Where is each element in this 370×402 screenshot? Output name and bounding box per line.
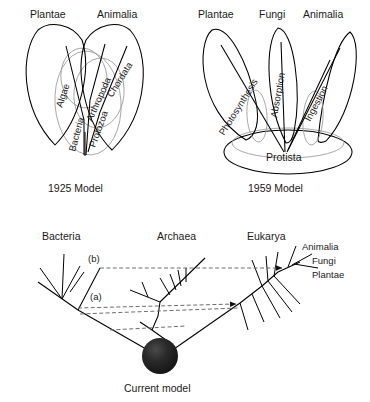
panel2-label-plantae: Plantae: [198, 8, 234, 20]
bacteria-twigs: [40, 254, 84, 299]
panel2-label-absorption: Absorption: [268, 72, 287, 119]
panel3-marker-a: (a): [90, 291, 102, 302]
panel1-label-animalia: Animalia: [97, 8, 137, 20]
panel1-label-plantae: Plantae: [30, 8, 66, 20]
eukarya-twigs: [240, 252, 300, 330]
biology-kingdom-models-figure: Plantae Animalia Algae Bacteria: [0, 0, 370, 402]
panel2-label-fungi: Fungi: [259, 8, 285, 20]
panel3-label-eukarya: Eukarya: [247, 230, 286, 242]
panel2-label-photosynthesis: Photosynthesis: [216, 76, 260, 137]
panel2-label-animalia: Animalia: [303, 8, 343, 20]
eukarya-stem: [240, 272, 278, 303]
root-sphere: [142, 338, 178, 374]
panel3-label-archaea: Archaea: [157, 230, 196, 242]
figure-root: Plantae Animalia Algae Bacteria: [0, 0, 370, 402]
archaea-long-branch: [160, 258, 205, 302]
panel3-label-animalia: Animalia: [302, 241, 339, 252]
panel3-label-plantae: Plantae: [312, 269, 344, 280]
panel3-marker-b: (b): [88, 253, 100, 264]
transfer-line-a: [78, 304, 236, 308]
panel-1959-model: Plantae Fungi Animalia Photosynthesis: [198, 8, 356, 194]
panel3-label-fungi: Fungi: [312, 255, 336, 266]
archaea-base: [140, 322, 166, 340]
transfer-line-lower: [110, 326, 186, 330]
panel-current-model: Bacteria Archaea Eukarya: [38, 230, 344, 394]
bacteria-upper-branch: [78, 268, 100, 310]
panel1-label-bacteria: Bacteria: [66, 115, 86, 152]
panel3-caption: Current model: [124, 382, 191, 394]
panel1-caption: 1925 Model: [48, 182, 103, 194]
panel2-label-protista: Protista: [266, 151, 302, 163]
panel2-label-ingestion: Ingestion: [302, 84, 330, 123]
panel-1925-model: Plantae Animalia Algae Bacteria: [26, 8, 143, 194]
panel3-label-bacteria: Bacteria: [42, 230, 81, 242]
bacteria-lower-branch: [38, 282, 78, 310]
panel2-caption: 1959 Model: [248, 182, 303, 194]
